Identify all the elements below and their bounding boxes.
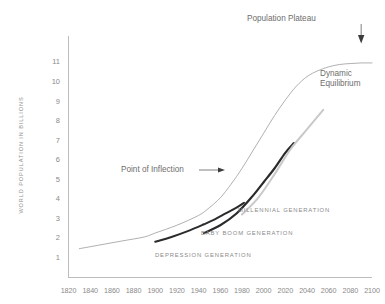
series-layer xyxy=(79,63,372,249)
label-millennial-generation: MILLENNIAL GENERATION xyxy=(238,207,330,214)
annotation-population-plateau: Population Plateau xyxy=(247,14,316,23)
y-tick-label: 8 xyxy=(42,117,60,126)
series-line-3 xyxy=(242,110,323,215)
y-tick-label: 11 xyxy=(42,58,60,67)
x-tick-label: 2100 xyxy=(359,287,385,295)
annotation-dynamic-equilibrium-line2: Equilibrium xyxy=(320,79,361,88)
annotation-arrows xyxy=(199,24,364,173)
y-tick-label: 6 xyxy=(42,156,60,165)
annotation-dynamic-equilibrium-line1: Dynamic xyxy=(320,69,352,78)
plateau-arrow-head xyxy=(358,35,364,44)
label-depression-generation: DEPRESSION GENERATION xyxy=(155,252,252,259)
y-tick-label: 4 xyxy=(42,195,60,204)
y-tick-label: 3 xyxy=(42,215,60,224)
label-baby-boom-generation: BABY BOOM GENERATION xyxy=(201,230,293,237)
population-chart: WORLD POPULATION IN BILLIONS 12345678910… xyxy=(0,0,385,304)
y-tick-label: 1 xyxy=(42,254,60,263)
inflection-arrow-head xyxy=(218,167,225,172)
y-tick-label: 5 xyxy=(42,176,60,185)
y-tick-label: 10 xyxy=(42,78,60,87)
y-tick-label: 9 xyxy=(42,98,60,107)
y-tick-label: 2 xyxy=(42,234,60,243)
annotation-point-of-inflection: Point of Inflection xyxy=(121,165,184,174)
y-tick-label: 7 xyxy=(42,137,60,146)
